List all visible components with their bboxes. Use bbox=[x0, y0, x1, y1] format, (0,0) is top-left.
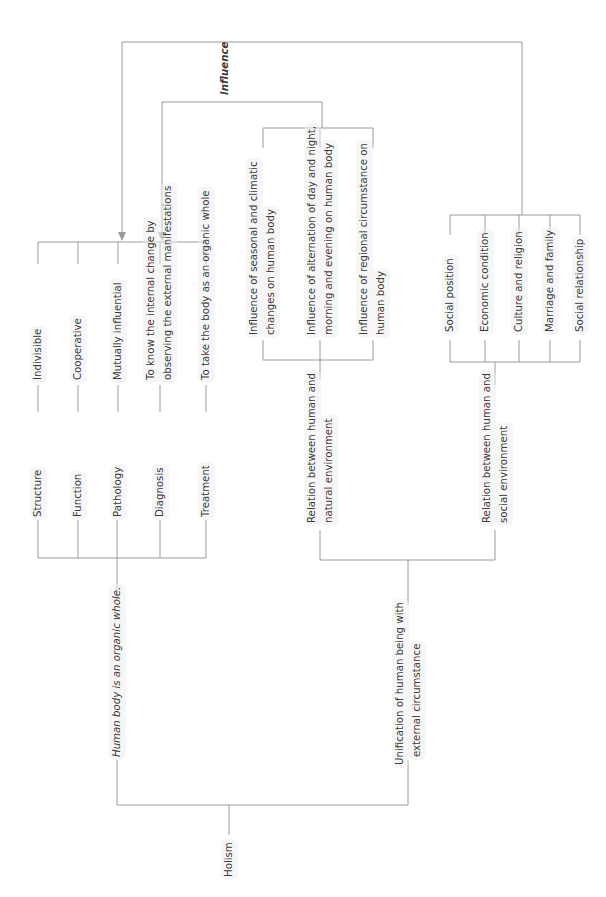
right-branch-title-line2: external circumstance bbox=[409, 641, 426, 760]
value-diagnosis-line2: observing the external manifestations bbox=[160, 183, 177, 383]
social-item-social-position: Social position bbox=[442, 255, 459, 335]
natural-title-line1: Relation between human and bbox=[304, 370, 321, 526]
natural-item-2-line2: morning and evening on human body bbox=[321, 140, 338, 338]
social-title-line2: social environment bbox=[496, 423, 513, 526]
aspect-pathology: Pathology bbox=[110, 464, 127, 520]
natural-item-2-line1: Influence of alternation of day and nigh… bbox=[304, 123, 321, 338]
aspect-structure: Structure bbox=[30, 467, 47, 520]
natural-item-1-line2: changes on human body bbox=[263, 206, 280, 338]
value-diagnosis-line1: To know the internal change by bbox=[143, 217, 160, 383]
natural-item-3-line2: human body bbox=[373, 268, 390, 338]
right-branch-title-line1: Unification of human being with bbox=[392, 599, 409, 768]
natural-item-3-line1: Influence of regional circumstance on bbox=[356, 140, 373, 338]
natural-title-line2: natural environment bbox=[321, 415, 338, 526]
social-item-marriage-family: Marriage and family bbox=[542, 227, 559, 335]
aspect-diagnosis: Diagnosis bbox=[152, 464, 169, 520]
root-holism: Holism bbox=[221, 839, 238, 880]
aspect-treatment: Treatment bbox=[198, 462, 215, 520]
value-mutually-influential: Mutually influential bbox=[110, 279, 127, 383]
social-title-line1: Relation between human and bbox=[479, 370, 496, 526]
value-cooperative: Cooperative bbox=[70, 315, 87, 383]
left-branch-title: Human body is an organic whole. bbox=[109, 584, 126, 760]
connector-lines bbox=[0, 0, 606, 897]
aspect-function: Function bbox=[70, 471, 87, 520]
social-item-culture-religion: Culture and religion bbox=[511, 228, 528, 335]
influence-label: Influence bbox=[217, 39, 234, 98]
value-indivisible: Indivisible bbox=[30, 326, 47, 383]
natural-item-1-line1: Influence of seasonal and climatic bbox=[246, 158, 263, 338]
value-treatment: To take the body as an organic whole bbox=[198, 187, 215, 383]
social-item-social-relationship: Social relationship bbox=[572, 236, 589, 335]
social-item-economic-condition: Economic condition bbox=[477, 229, 494, 335]
holism-diagram: Influence Indivisible Cooperative Mutual… bbox=[0, 0, 606, 897]
